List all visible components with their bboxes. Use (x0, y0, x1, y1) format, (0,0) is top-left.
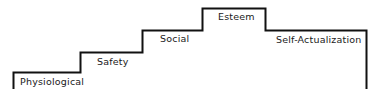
step-label-safety: Safety (97, 56, 129, 67)
needs-staircase-diagram: Physiological Safety Social Esteem Self-… (0, 0, 384, 99)
step-label-social: Social (160, 33, 189, 44)
step-label-self-actualization: Self-Actualization (276, 34, 362, 45)
step-label-esteem: Esteem (218, 11, 255, 22)
step-label-physiological: Physiological (20, 76, 84, 87)
